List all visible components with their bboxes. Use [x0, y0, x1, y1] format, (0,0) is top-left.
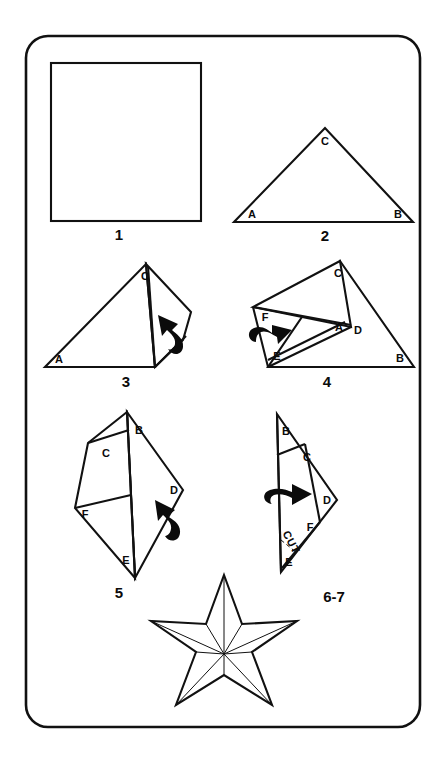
vertex-label-b: B [282, 425, 290, 437]
vertex-label-a: A [248, 208, 256, 220]
vertex-label-f: F [82, 508, 89, 520]
finished-star [151, 575, 297, 705]
vertex-label-c: C [334, 267, 342, 279]
vertex-label-d: D [323, 494, 331, 506]
vertex-label-e: E [273, 350, 280, 362]
vertex-label-f: F [307, 521, 314, 533]
step-1-number: 1 [115, 226, 123, 243]
step-3-number: 3 [122, 373, 130, 390]
vertex-label-f: F [262, 311, 269, 323]
vertex-label-b: B [394, 208, 402, 220]
step3-main-triangle [45, 264, 155, 367]
instruction-sheet: 1 A B C 2 A C 3 [0, 0, 445, 767]
step-5-kite: B C F D E 5 [75, 412, 183, 601]
step-2-number: 2 [321, 227, 329, 244]
vertex-label-c: C [321, 135, 329, 147]
step-6-7-number: 6-7 [323, 588, 345, 605]
step-4-second-fold: C F A D E B 4 [249, 261, 414, 390]
vertex-label-d: D [354, 324, 362, 336]
step-6-7-cut: B C D F E CUT 6-7 [264, 414, 345, 605]
vertex-label-c: C [303, 451, 311, 463]
step-1-square: 1 [51, 63, 201, 243]
vertex-label-d: D [170, 484, 178, 496]
step-5-number: 5 [115, 584, 123, 601]
vertex-label-c: C [141, 270, 149, 282]
folding-diagram: 1 A B C 2 A C 3 [0, 0, 445, 767]
step3-right-flap [146, 264, 191, 367]
vertex-label-a: A [55, 353, 63, 365]
vertex-label-e: E [122, 554, 129, 566]
vertex-label-e: E [285, 556, 292, 568]
vertex-label-b: B [135, 424, 143, 436]
step-4-number: 4 [323, 373, 332, 390]
step-3-first-fold: A C 3 [45, 264, 191, 390]
square-shape [51, 63, 201, 221]
vertex-label-c: C [102, 447, 110, 459]
vertex-label-b: B [396, 352, 404, 364]
vertex-label-a: A [335, 321, 343, 333]
step-2-triangle: A B C 2 [234, 128, 413, 244]
